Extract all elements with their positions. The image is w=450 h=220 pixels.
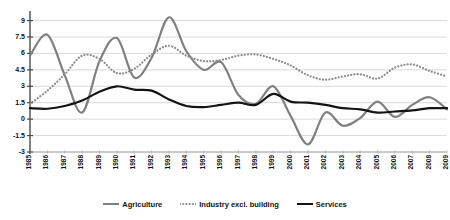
legend-label: Agriculture — [122, 200, 162, 209]
x-tick-label: 1986 — [43, 155, 50, 169]
x-tick-label: 1997 — [235, 155, 242, 169]
axes — [27, 11, 447, 154]
y-tick-label: -3 — [0, 148, 25, 155]
x-tick-label: 2001 — [304, 155, 311, 169]
x-tick-label: 1995 — [200, 155, 207, 169]
x-tick-label: 1996 — [217, 155, 224, 169]
legend-item-industry-excl-building[interactable]: Industry excl. building — [180, 200, 279, 209]
chart-plot-area — [0, 0, 450, 220]
series-lines — [30, 17, 447, 144]
x-tick-label: 2006 — [391, 155, 398, 169]
x-tick-label: 1998 — [252, 155, 259, 169]
line-chart: 97.564.531.50-1.5-3 19851986198719881989… — [0, 0, 450, 220]
y-tick-label: 0 — [0, 115, 25, 122]
y-tick-label: 6 — [0, 49, 25, 56]
y-tick-label: -1.5 — [0, 132, 25, 139]
x-tick-label: 1988 — [78, 155, 85, 169]
y-tick-label: 7.5 — [0, 33, 25, 40]
x-tick-label: 1992 — [148, 155, 155, 169]
x-tick-label: 1993 — [165, 155, 172, 169]
x-tick-label: 2004 — [356, 155, 363, 169]
legend-swatch-icon — [103, 200, 119, 208]
x-tick-label: 1985 — [26, 155, 33, 169]
x-tick-label: 2000 — [287, 155, 294, 169]
x-tick-label: 2002 — [321, 155, 328, 169]
legend-item-services[interactable]: Services — [297, 200, 347, 209]
series-line-services — [30, 86, 447, 112]
y-tick-label: 1.5 — [0, 99, 25, 106]
y-tick-label: 9 — [0, 17, 25, 24]
x-tick-label: 2003 — [339, 155, 346, 169]
x-tick-label: 2007 — [408, 155, 415, 169]
x-tick-label: 1987 — [61, 155, 68, 169]
x-tick-label: 2008 — [426, 155, 433, 169]
x-tick-label: 2009 — [443, 155, 450, 169]
x-tick-label: 1994 — [182, 155, 189, 169]
legend-label: Services — [316, 200, 347, 209]
series-line-agriculture — [30, 17, 447, 144]
legend-item-agriculture[interactable]: Agriculture — [103, 200, 162, 209]
x-tick-label: 1999 — [269, 155, 276, 169]
chart-legend: AgricultureIndustry excl. buildingServic… — [0, 196, 450, 212]
x-tick-label: 2005 — [374, 155, 381, 169]
legend-label: Industry excl. building — [199, 200, 279, 209]
x-tick-label: 1990 — [113, 155, 120, 169]
x-tick-label: 1991 — [130, 155, 137, 169]
x-tick-label: 1989 — [96, 155, 103, 169]
y-tick-label: 3 — [0, 82, 25, 89]
legend-swatch-icon — [297, 200, 313, 208]
y-tick-label: 4.5 — [0, 66, 25, 73]
legend-swatch-icon — [180, 200, 196, 208]
